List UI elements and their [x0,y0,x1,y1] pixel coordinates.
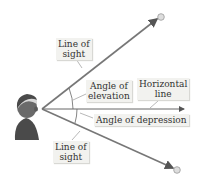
leader-sight-upper [76,59,82,68]
label-line-of-sight-upper: Line of sight [56,38,92,60]
depression-arc [75,109,77,123]
leader-sight-lower [72,131,80,140]
elevation-arc [69,88,73,109]
target-upper [158,14,165,21]
leader-depression [80,113,93,118]
leader-horizontal [150,101,158,108]
leader-elevation [73,94,86,100]
target-lower [174,167,181,174]
label-angle-of-elevation: Angle of elevation [86,80,132,102]
person-icon [15,94,39,140]
label-horizontal-line: Horizontal line [137,78,189,100]
label-line-of-sight-lower: Line of sight [53,141,89,163]
label-angle-of-depression: Angle of depression [94,114,189,126]
